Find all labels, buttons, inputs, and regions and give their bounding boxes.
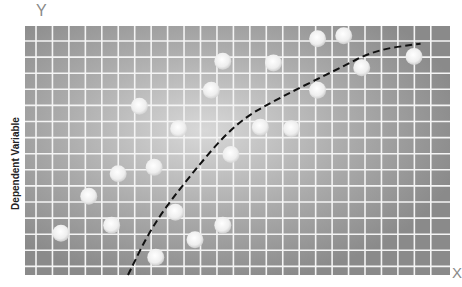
data-point-marker [309,82,326,99]
data-point-marker [265,54,282,71]
data-point-marker [353,59,370,76]
data-point-marker [214,53,231,70]
data-point-marker [283,120,300,137]
data-point-marker [203,82,220,99]
data-point-marker [52,225,69,242]
y-axis-letter: Y [36,2,47,20]
data-point-marker [309,30,326,47]
data-point-marker [187,231,204,248]
data-point-marker [222,146,239,163]
data-point-marker [214,217,231,234]
y-axis-label: Dependent Variable [10,114,21,214]
data-point-marker [80,188,97,205]
data-point-marker [146,159,163,176]
data-point-marker [110,165,127,182]
data-point-marker [131,98,148,115]
data-point-marker [170,120,187,137]
data-point-marker [406,48,423,65]
data-point-marker [252,119,269,136]
data-point-marker [167,204,184,221]
data-point-marker [335,27,352,44]
data-point-marker [103,217,120,234]
data-point-marker [147,249,164,266]
x-axis-letter: X [452,264,462,281]
